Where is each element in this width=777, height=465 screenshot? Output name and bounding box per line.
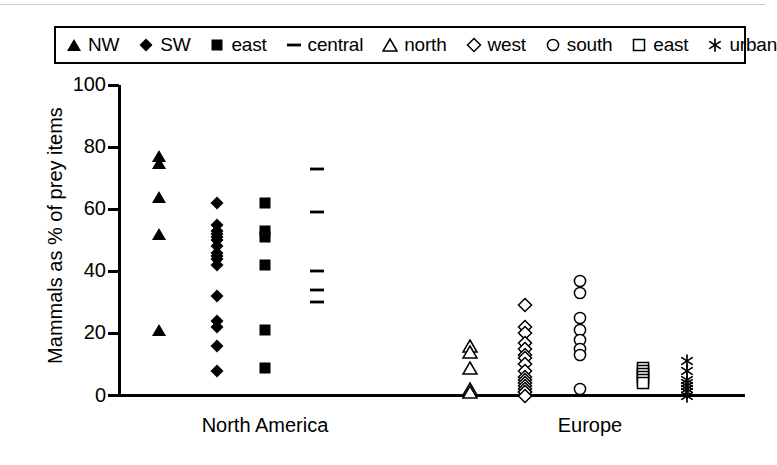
data-point-marker: [309, 294, 325, 310]
y-axis-tick: [108, 208, 119, 211]
data-point-marker: [635, 375, 651, 391]
x-axis-line: [118, 394, 745, 397]
data-point-marker: [309, 263, 325, 279]
data-point-marker: [257, 360, 273, 376]
x-axis-group-label: Europe: [500, 414, 680, 437]
data-point-marker: [462, 360, 478, 376]
y-axis-tick-label: 100: [60, 74, 106, 94]
data-point-marker: [572, 381, 588, 397]
y-axis-tick: [108, 332, 119, 335]
data-point-marker: [209, 257, 225, 273]
y-axis-tick-label: 60: [60, 198, 106, 218]
data-point-marker: [257, 229, 273, 245]
data-point-marker: [309, 161, 325, 177]
y-axis-tick-label: 40: [60, 260, 106, 280]
data-point-marker: [462, 384, 478, 400]
data-point-marker: [209, 363, 225, 379]
y-axis-title: Mammals as % of prey items: [44, 71, 67, 401]
data-point-marker: [151, 189, 167, 205]
data-point-marker: [517, 297, 533, 313]
data-point-marker: [309, 204, 325, 220]
data-point-marker: [572, 347, 588, 363]
data-point-marker: [257, 195, 273, 211]
data-point-marker: [151, 155, 167, 171]
data-point-marker: [517, 388, 533, 404]
data-point-marker: [209, 195, 225, 211]
y-axis-tick: [108, 146, 119, 149]
data-point-marker: [257, 322, 273, 338]
data-point-marker: [151, 226, 167, 242]
data-point-marker: [462, 344, 478, 360]
data-point-marker: [209, 319, 225, 335]
y-axis-tick-label: 0: [60, 385, 106, 405]
data-point-marker: [257, 257, 273, 273]
y-axis-tick: [108, 84, 119, 87]
data-point-marker: [151, 322, 167, 338]
data-point-marker: [572, 285, 588, 301]
y-axis-tick: [108, 270, 119, 273]
y-axis-tick: [108, 394, 119, 397]
x-axis-group-label: North America: [175, 414, 355, 437]
data-point-marker: [679, 388, 695, 404]
y-axis-line: [118, 85, 121, 397]
data-point-marker: [209, 288, 225, 304]
data-point-marker: [209, 338, 225, 354]
y-axis-tick-label: 80: [60, 136, 106, 156]
y-axis-tick-label: 20: [60, 322, 106, 342]
